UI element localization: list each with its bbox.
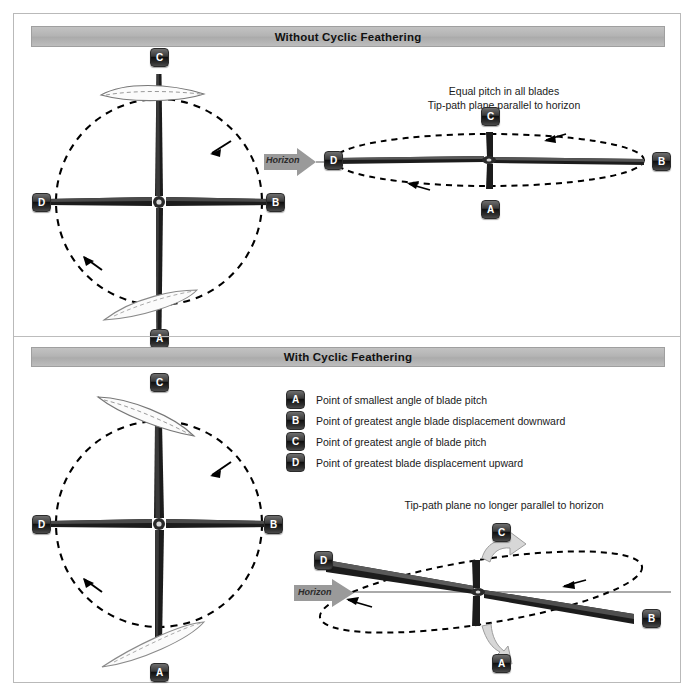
legend-item: C Point of greatest angle of blade pitch	[286, 431, 565, 452]
airfoil-section-a-without	[104, 290, 197, 320]
note-bottom-right-line1: Tip-path plane no longer parallel to hor…	[369, 498, 639, 512]
marker-a-tilt-with: A	[492, 654, 511, 673]
marker-c-persp-without: C	[481, 107, 500, 126]
legend-item: D Point of greatest blade displacement u…	[286, 452, 565, 473]
rotation-arrowhead-lower-left	[83, 256, 94, 266]
legend-item: A Point of smallest angle of blade pitch	[286, 389, 565, 410]
section-header-without: Without Cyclic Feathering	[31, 26, 665, 47]
airfoil-section-c-with	[98, 397, 194, 436]
rotor-blades-tilt-with	[326, 560, 634, 626]
airfoil-section-c-without	[101, 86, 204, 101]
marker-b-plan-without: B	[266, 193, 285, 212]
marker-a-plan-with: A	[150, 663, 169, 682]
legend-text-b: Point of greatest angle blade displaceme…	[316, 415, 565, 427]
rotation-arrow-with-upper-right	[212, 462, 231, 475]
legend-item: B Point of greatest angle blade displace…	[286, 410, 565, 431]
marker-legend: A Point of smallest angle of blade pitch…	[286, 389, 565, 473]
horizon-label-top: Horizon	[266, 155, 300, 165]
legend-text-d: Point of greatest blade displacement upw…	[316, 457, 523, 469]
figure-frame: Without Cyclic Feathering	[13, 13, 681, 683]
marker-d-persp-without: D	[324, 151, 343, 170]
horizon-arrow-bottom: Horizon	[286, 576, 364, 610]
marker-b-tilt-with: B	[642, 609, 661, 628]
section-header-with: With Cyclic Feathering	[31, 347, 665, 367]
legend-key-d: D	[286, 453, 305, 472]
legend-key-a: A	[286, 390, 305, 409]
marker-c-plan-without: C	[150, 48, 169, 67]
note-bottom-right: Tip-path plane no longer parallel to hor…	[369, 498, 639, 512]
rotor-blades-plan-without	[46, 74, 272, 330]
rotor-blades-plan-with	[48, 422, 270, 644]
marker-a-plan-without: A	[150, 329, 169, 348]
section-divider	[14, 336, 680, 337]
marker-b-plan-with: B	[264, 515, 283, 534]
marker-c-tilt-with: C	[492, 523, 511, 542]
rotation-arrowhead-with-upper-right	[210, 470, 221, 478]
marker-a-persp-without: A	[481, 200, 500, 219]
legend-key-c: C	[286, 432, 305, 451]
plan-view-with-cyclic: C A D B	[34, 374, 284, 674]
marker-d-plan-without: D	[32, 193, 51, 212]
perspective-view-without-cyclic: C A D B	[314, 112, 664, 217]
legend-key-b: B	[286, 411, 305, 430]
note-top-right-line1: Equal pitch in all blades	[374, 84, 634, 98]
rotation-arrow-upper-right	[212, 141, 231, 153]
note-top-right: Equal pitch in all blades Tip-path plane…	[374, 84, 634, 112]
note-top-right-line2: Tip-path plane parallel to horizon	[374, 98, 634, 112]
legend-text-a: Point of smallest angle of blade pitch	[316, 394, 487, 406]
horizon-arrow-top: Horizon	[252, 146, 322, 180]
section-title-without: Without Cyclic Feathering	[275, 31, 422, 43]
marker-d-plan-with: D	[32, 515, 51, 534]
horizon-label-bottom: Horizon	[298, 587, 332, 597]
rotation-arrowhead-persp-left	[407, 181, 419, 189]
rotation-arrowhead-with-lower-left	[83, 578, 94, 588]
section-title-with: With Cyclic Feathering	[284, 351, 412, 363]
marker-d-tilt-with: D	[314, 551, 333, 570]
airfoil-section-a-with	[102, 622, 204, 667]
rotation-arrowhead-tilt-right	[562, 581, 575, 589]
plan-view-without-cyclic: C A D B	[34, 54, 284, 344]
marker-c-plan-with: C	[150, 373, 169, 392]
legend-text-c: Point of greatest angle of blade pitch	[316, 436, 486, 448]
marker-b-persp-without: B	[652, 152, 671, 171]
